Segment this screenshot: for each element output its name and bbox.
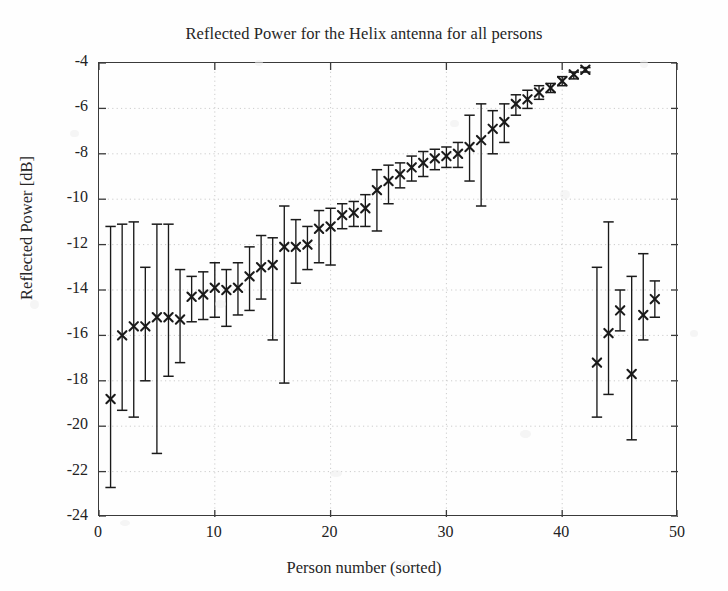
data-point-errorbar xyxy=(395,163,405,188)
data-point-errorbar xyxy=(314,211,324,263)
y-tick-label: -16 xyxy=(36,324,88,342)
x-tick-label: 0 xyxy=(68,523,128,541)
grid-lines xyxy=(99,63,678,517)
data-point-errorbar xyxy=(534,86,544,100)
x-tick-label: 10 xyxy=(184,523,244,541)
data-point-errorbar xyxy=(511,95,521,115)
data-point-errorbar xyxy=(302,226,312,269)
x-tick-label: 50 xyxy=(647,523,707,541)
y-tick-label: -4 xyxy=(36,52,88,70)
y-tick-label: -18 xyxy=(36,370,88,388)
x-tick-label: 30 xyxy=(415,523,475,541)
data-point-errorbar xyxy=(557,77,567,86)
x-axis-label: Person number (sorted) xyxy=(0,558,728,578)
data-point-errorbar xyxy=(592,267,602,417)
y-tick-label: -20 xyxy=(36,415,88,433)
data-point-errorbar xyxy=(210,263,220,317)
x-tick-label: 40 xyxy=(531,523,591,541)
plot-svg xyxy=(99,63,678,517)
data-point-errorbar xyxy=(522,90,532,108)
data-point-errorbar xyxy=(198,272,208,320)
data-point-errorbar xyxy=(244,247,254,311)
data-point-errorbar xyxy=(406,156,416,181)
data-point-errorbar xyxy=(626,276,636,439)
data-point-errorbar xyxy=(163,224,173,376)
page-title: Reflected Power for the Helix antenna fo… xyxy=(0,24,728,44)
y-tick-label: -22 xyxy=(36,461,88,479)
data-point-errorbar xyxy=(476,104,486,206)
data-point-errorbar xyxy=(325,208,335,265)
data-point-errorbar xyxy=(569,70,579,79)
data-point-errorbar xyxy=(638,254,648,340)
data-point-errorbar xyxy=(349,201,359,226)
data-point-errorbar xyxy=(152,224,162,453)
data-point-errorbar xyxy=(372,170,382,231)
data-point-errorbar xyxy=(117,224,127,410)
figure-canvas: Reflected Power for the Helix antenna fo… xyxy=(0,0,728,591)
data-point-errorbar xyxy=(418,152,428,177)
y-tick-label: -8 xyxy=(36,143,88,161)
y-tick-label: -24 xyxy=(36,506,88,524)
data-point-errorbar xyxy=(650,281,660,317)
data-point-errorbar xyxy=(488,111,498,154)
y-tick-label: -12 xyxy=(36,234,88,252)
data-point-errorbar xyxy=(545,83,555,92)
data-point-errorbar xyxy=(291,220,301,284)
y-tick-label: -10 xyxy=(36,188,88,206)
data-point-errorbar xyxy=(233,263,243,315)
x-tick-label: 20 xyxy=(300,523,360,541)
data-point-errorbar xyxy=(175,270,185,363)
data-point-errorbar xyxy=(140,267,150,381)
plot-area xyxy=(98,62,677,516)
data-point-errorbar xyxy=(430,149,440,169)
data-point-errorbar xyxy=(337,204,347,229)
data-point-errorbar xyxy=(221,270,231,327)
data-point-errorbar xyxy=(441,147,451,167)
data-point-errorbar xyxy=(129,222,139,417)
y-axis-label: Reflected Power [dB] xyxy=(17,78,37,378)
data-point-errorbar xyxy=(105,226,115,487)
data-series-errorbars xyxy=(105,66,660,488)
data-point-errorbar xyxy=(453,142,463,167)
data-point-errorbar xyxy=(499,104,509,143)
data-point-errorbar xyxy=(464,115,474,181)
scan-artifact xyxy=(70,130,79,137)
data-point-errorbar xyxy=(615,290,625,331)
data-point-errorbar xyxy=(383,165,393,204)
data-point-errorbar xyxy=(603,222,613,395)
scan-artifact xyxy=(690,330,698,337)
data-point-errorbar xyxy=(186,276,196,321)
y-tick-label: -6 xyxy=(36,97,88,115)
data-point-errorbar xyxy=(279,206,289,383)
data-point-errorbar xyxy=(360,195,370,227)
y-tick-label: -14 xyxy=(36,279,88,297)
data-point-errorbar xyxy=(580,66,590,74)
data-point-errorbar xyxy=(268,238,278,340)
tick-marks xyxy=(99,63,678,517)
